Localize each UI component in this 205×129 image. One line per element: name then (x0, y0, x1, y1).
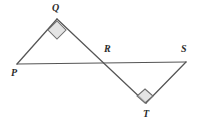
segment-PQ (17, 19, 57, 64)
right-angle-marker-Q (48, 21, 66, 39)
figure-canvas (0, 0, 205, 129)
segment-QT (57, 19, 146, 103)
right-angle-marker-T (137, 89, 153, 103)
vertex-label-q: Q (52, 3, 59, 13)
vertex-label-p: P (11, 68, 17, 78)
geometry-figure: P Q R S T (0, 0, 205, 129)
vertex-label-t: T (143, 109, 149, 119)
vertex-label-r: R (104, 44, 111, 54)
segment-PS (17, 62, 186, 64)
vertex-label-s: S (181, 44, 187, 54)
